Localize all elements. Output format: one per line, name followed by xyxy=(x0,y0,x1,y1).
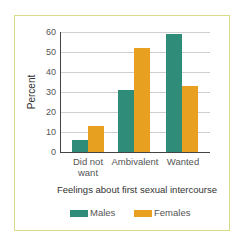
y-axis-line xyxy=(60,32,61,153)
y-tick-10: 10 xyxy=(38,127,56,137)
bar-females-did-not-want xyxy=(88,126,104,152)
legend-swatch-females xyxy=(134,210,152,217)
y-tick-60: 60 xyxy=(38,27,56,37)
bar-males-did-not-want xyxy=(72,140,88,152)
legend-label-males: Males xyxy=(90,207,115,218)
y-tick-50: 50 xyxy=(38,47,56,57)
bar-males-wanted xyxy=(166,34,182,152)
y-tick-20: 20 xyxy=(38,107,56,117)
bar-females-wanted xyxy=(182,86,198,152)
bar-females-ambivalent xyxy=(134,48,150,152)
x-axis-label: Feelings about first sexual intercourse xyxy=(52,184,222,195)
y-tick-30: 30 xyxy=(38,87,56,97)
x-category-wanted: Wanted xyxy=(163,156,203,167)
x-category-ambivalent: Ambivalent xyxy=(110,156,160,167)
plot-area xyxy=(60,32,210,152)
y-tick-0: 0 xyxy=(38,147,56,157)
x-axis-line xyxy=(60,152,210,153)
bar-males-ambivalent xyxy=(118,90,134,152)
legend-label-females: Females xyxy=(154,207,190,218)
gridline-60 xyxy=(60,32,210,33)
legend-swatch-males xyxy=(70,210,88,217)
legend: Males Females xyxy=(0,207,245,219)
x-category-line1: Did not xyxy=(68,156,108,167)
y-tick-40: 40 xyxy=(38,67,56,77)
x-category-did-not-want: Did not want xyxy=(68,156,108,178)
x-category-line2: want xyxy=(68,167,108,178)
y-axis-label: Percent xyxy=(26,75,37,109)
